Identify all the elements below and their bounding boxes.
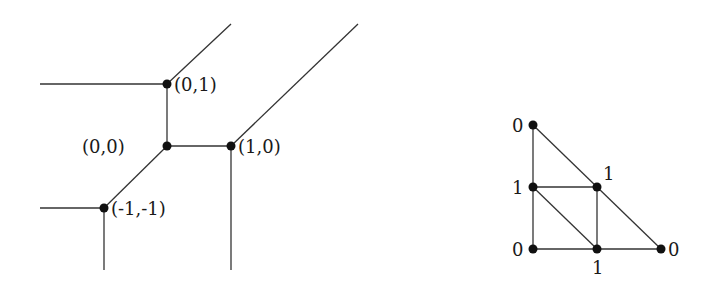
lattice-point: [529, 245, 538, 254]
triangle-edge: [533, 187, 597, 249]
curve-vertex: [163, 80, 172, 89]
curve-edge: [231, 24, 358, 146]
curve-vertex: [163, 142, 172, 151]
lattice-point-value: 1: [592, 257, 603, 278]
vertex-coordinate-label: (-1,-1): [111, 198, 166, 219]
curve-vertex: [100, 204, 109, 213]
lattice-point: [593, 183, 602, 192]
lattice-point-value: 0: [668, 239, 679, 260]
lattice-point-value: 1: [512, 177, 523, 198]
vertex-coordinate-label: (0,0): [82, 136, 125, 157]
lattice-point-value: 1: [603, 163, 614, 184]
lattice-point: [529, 183, 538, 192]
subdivision-labels: 010110: [512, 115, 679, 278]
curve-vertex: [227, 142, 236, 151]
lattice-point: [657, 245, 666, 254]
lattice-point-value: 0: [512, 115, 523, 136]
lattice-point: [593, 245, 602, 254]
diagram-canvas: (0,1)(0,0)(1,0)(-1,-1) 010110: [0, 0, 711, 290]
lattice-point-value: 0: [512, 239, 523, 260]
vertex-coordinate-label: (0,1): [174, 74, 217, 95]
lattice-point: [529, 121, 538, 130]
vertex-coordinate-label: (1,0): [238, 136, 281, 157]
